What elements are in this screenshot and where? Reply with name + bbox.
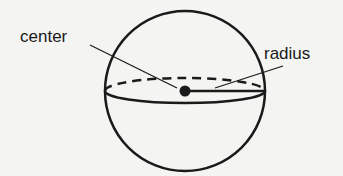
center-label: center xyxy=(20,27,68,46)
center-point xyxy=(180,86,191,97)
radius-leader-line xyxy=(215,66,283,88)
radius-label: radius xyxy=(264,44,310,63)
sphere-diagram: center radius xyxy=(0,0,343,176)
